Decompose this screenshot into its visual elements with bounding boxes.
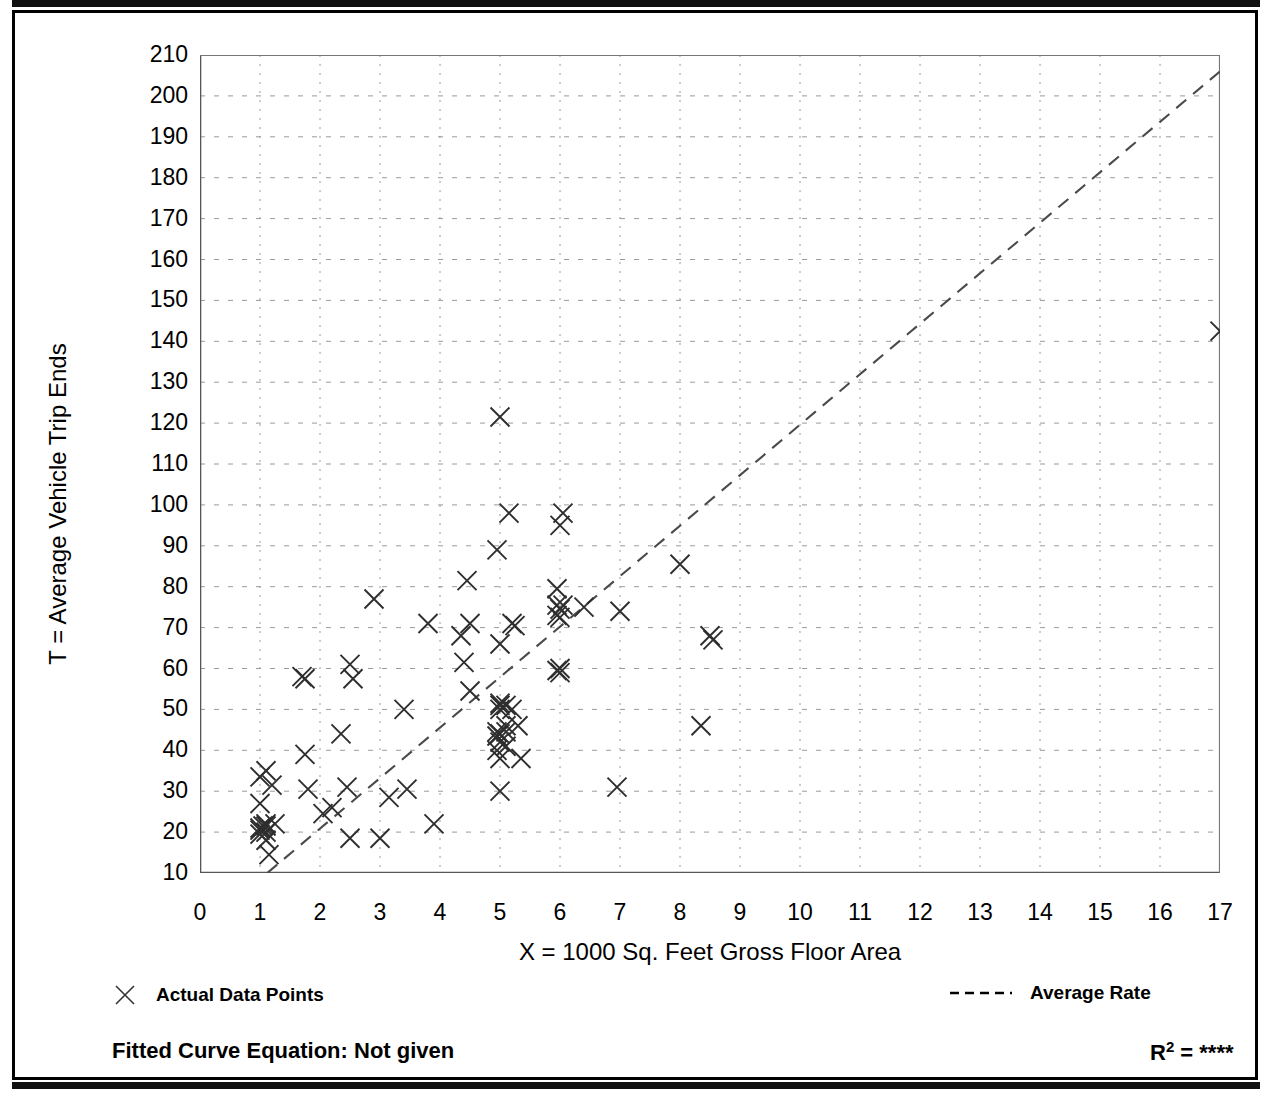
y-tick-label: 140 xyxy=(134,329,188,352)
data-point-marker xyxy=(671,555,690,574)
data-point-marker xyxy=(1211,322,1221,341)
data-point-marker xyxy=(344,669,363,688)
data-point-marker xyxy=(260,845,279,864)
data-point-marker xyxy=(323,798,342,817)
x-tick-label: 2 xyxy=(300,899,340,926)
gridlines xyxy=(200,55,1220,873)
y-tick-label: 100 xyxy=(134,493,188,516)
data-point-marker xyxy=(380,788,399,807)
x-axis-tick-labels: 01234567891011121314151617 xyxy=(0,899,1272,939)
y-axis-tick-labels: 2102001901801701601501401301201101009080… xyxy=(128,0,188,1000)
y-tick-label: 130 xyxy=(134,370,188,393)
data-point-marker xyxy=(299,780,318,799)
data-point-marker xyxy=(296,669,315,688)
x-tick-label: 16 xyxy=(1140,899,1180,926)
data-point-marker xyxy=(419,614,438,633)
y-tick-label: 80 xyxy=(134,575,188,598)
r-squared-value: R2 = **** xyxy=(1150,1038,1234,1066)
x-tick-label: 7 xyxy=(600,899,640,926)
data-point-marker xyxy=(458,571,477,590)
data-point-marker xyxy=(338,778,357,797)
y-tick-label: 40 xyxy=(134,738,188,761)
y-tick-label: 170 xyxy=(134,207,188,230)
y-tick-label: 120 xyxy=(134,411,188,434)
x-tick-label: 9 xyxy=(720,899,760,926)
r-squared-equals: = xyxy=(1174,1040,1199,1065)
axis-lines xyxy=(200,55,1220,873)
y-tick-label: 20 xyxy=(134,820,188,843)
data-point-marker xyxy=(554,504,573,523)
data-point-marker xyxy=(341,655,360,674)
y-tick-label: 200 xyxy=(134,84,188,107)
y-tick-label: 180 xyxy=(134,166,188,189)
x-tick-label: 5 xyxy=(480,899,520,926)
y-tick-label: 160 xyxy=(134,248,188,271)
y-axis-title: T = Average Vehicle Trip Ends xyxy=(44,294,72,714)
data-point-marker xyxy=(506,616,525,635)
scatter-plot-svg xyxy=(200,55,1220,873)
data-point-marker xyxy=(365,589,384,608)
y-tick-label: 50 xyxy=(134,697,188,720)
data-point-marker xyxy=(314,804,333,823)
data-point-marker xyxy=(452,626,471,645)
data-point-marker xyxy=(500,504,519,523)
data-point-marker xyxy=(425,814,444,833)
data-point-marker xyxy=(488,540,507,559)
data-point-marker xyxy=(257,814,276,833)
data-point-marker xyxy=(551,663,570,682)
data-point-marker xyxy=(371,829,390,848)
data-point-marker xyxy=(461,614,480,633)
footer: Fitted Curve Equation: Not given R2 = **… xyxy=(0,1038,1272,1072)
legend-label-average-rate: Average Rate xyxy=(1030,982,1151,1004)
x-tick-label: 0 xyxy=(180,899,220,926)
bottom-black-rule xyxy=(12,1082,1260,1089)
x-tick-label: 4 xyxy=(420,899,460,926)
legend: Actual Data Points Average Rate xyxy=(0,982,1272,1014)
data-point-marker xyxy=(548,579,567,598)
data-point-marker xyxy=(692,716,711,735)
data-point-marker xyxy=(551,608,570,627)
x-tick-label: 14 xyxy=(1020,899,1060,926)
data-point-marker xyxy=(461,681,480,700)
x-axis-title: X = 1000 Sq. Feet Gross Floor Area xyxy=(200,938,1220,966)
average-rate-line xyxy=(267,71,1220,873)
top-black-rule xyxy=(12,0,1260,7)
y-tick-label: 10 xyxy=(134,861,188,884)
x-tick-label: 13 xyxy=(960,899,1000,926)
legend-item-data-points: Actual Data Points xyxy=(112,982,324,1008)
dashed-line-icon xyxy=(948,986,1014,1000)
x-tick-label: 12 xyxy=(900,899,940,926)
y-tick-label: 60 xyxy=(134,657,188,680)
x-tick-label: 8 xyxy=(660,899,700,926)
data-point-marker xyxy=(341,829,360,848)
x-tick-label: 3 xyxy=(360,899,400,926)
data-point-markers xyxy=(251,322,1221,865)
r-squared-letter: R xyxy=(1150,1040,1166,1065)
y-tick-label: 30 xyxy=(134,779,188,802)
data-point-marker xyxy=(455,653,474,672)
y-tick-label: 150 xyxy=(134,288,188,311)
data-point-marker xyxy=(398,780,417,799)
data-point-marker xyxy=(575,598,594,617)
axis-ticks xyxy=(200,55,1220,873)
data-point-marker xyxy=(296,745,315,764)
y-tick-label: 190 xyxy=(134,125,188,148)
data-point-marker xyxy=(512,749,531,768)
fitted-curve-equation: Fitted Curve Equation: Not given xyxy=(112,1038,454,1064)
y-tick-label: 90 xyxy=(134,534,188,557)
x-tick-label: 10 xyxy=(780,899,820,926)
legend-item-average-rate: Average Rate xyxy=(948,982,1151,1004)
data-point-marker xyxy=(263,776,282,795)
r-squared-exponent: 2 xyxy=(1166,1038,1174,1055)
x-tick-label: 1 xyxy=(240,899,280,926)
x-tick-label: 17 xyxy=(1200,899,1240,926)
x-tick-label: 11 xyxy=(840,899,880,926)
x-marker-icon xyxy=(112,982,138,1008)
y-tick-label: 70 xyxy=(134,616,188,639)
y-tick-label: 210 xyxy=(134,43,188,66)
data-point-marker xyxy=(332,724,351,743)
data-point-marker xyxy=(608,778,627,797)
y-tick-label: 110 xyxy=(134,452,188,475)
data-point-marker xyxy=(491,407,510,426)
x-tick-label: 6 xyxy=(540,899,580,926)
